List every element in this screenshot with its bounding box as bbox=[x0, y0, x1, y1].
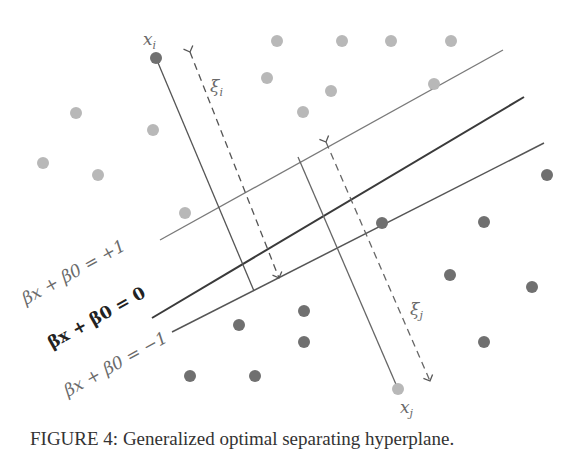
label-xi: xi bbox=[143, 29, 156, 52]
dark-point bbox=[150, 52, 162, 64]
label-slack-j: ξj bbox=[410, 299, 423, 322]
light-point bbox=[336, 35, 348, 47]
xi-perpendicular bbox=[156, 58, 254, 291]
dark-point bbox=[233, 319, 245, 331]
light-point bbox=[261, 72, 273, 84]
hyperplane-line bbox=[152, 97, 524, 318]
dark-point bbox=[541, 169, 553, 181]
light-point bbox=[428, 78, 440, 90]
dark-point bbox=[184, 370, 196, 382]
light-point bbox=[297, 106, 309, 118]
dark-point bbox=[376, 217, 388, 229]
light-point bbox=[92, 169, 104, 181]
margin-line-minus bbox=[172, 143, 544, 332]
dark-point bbox=[478, 216, 490, 228]
slack-xj-arrow bbox=[326, 142, 430, 381]
light-point bbox=[325, 85, 337, 97]
label-slack-i: ξi bbox=[210, 76, 223, 99]
light-point bbox=[179, 207, 191, 219]
point-xj bbox=[392, 383, 404, 395]
light-point bbox=[37, 157, 49, 169]
light-point bbox=[271, 35, 283, 47]
dark-class-points bbox=[150, 52, 553, 382]
light-point bbox=[70, 107, 82, 119]
dark-point bbox=[298, 336, 310, 348]
dark-point bbox=[478, 336, 490, 348]
dark-point bbox=[298, 305, 310, 317]
light-point bbox=[147, 124, 159, 136]
dark-point bbox=[526, 281, 538, 293]
dark-point bbox=[444, 269, 456, 281]
dark-point bbox=[249, 370, 261, 382]
figure-caption: FIGURE 4: Generalized optimal separating… bbox=[30, 428, 550, 448]
light-point bbox=[445, 35, 457, 47]
label-xj: xj bbox=[400, 397, 414, 420]
light-point bbox=[385, 35, 397, 47]
